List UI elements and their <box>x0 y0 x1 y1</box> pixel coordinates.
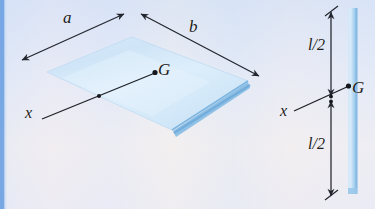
label-centroid-left: G <box>158 61 170 78</box>
page-edge-stripe <box>0 0 5 209</box>
edge-view-bar-highlight <box>348 8 351 194</box>
plate-edge-view <box>348 8 358 194</box>
x-axis-right <box>294 83 351 111</box>
label-x-axis-left: x <box>25 105 32 121</box>
centroid-dot-left <box>152 70 157 75</box>
x-axis-right-tick-upper <box>329 95 333 99</box>
label-l-over-2-bottom: l/2 <box>308 136 325 152</box>
edge-view-bar-shadow <box>355 8 357 194</box>
plate-isometric <box>47 37 250 137</box>
centroid-dot-right <box>346 83 351 88</box>
label-x-axis-right: x <box>280 103 287 119</box>
page-edge-stripe-soft <box>5 0 7 209</box>
x-axis-left-tick-dot <box>97 94 101 98</box>
x-axis-right-line <box>294 86 349 111</box>
figure-canvas: a b G x l/2 l/2 G x <box>0 0 375 209</box>
label-a: a <box>63 9 72 26</box>
figure-svg <box>0 0 375 209</box>
dimension-l-over-2-top <box>325 6 338 96</box>
label-centroid-right: G <box>352 79 364 96</box>
dimension-l-over-2-bottom <box>325 101 338 200</box>
label-b: b <box>189 18 198 35</box>
label-l-over-2-top: l/2 <box>308 37 325 53</box>
x-axis-right-tick-lower <box>329 100 333 104</box>
edge-view-bar-foot <box>348 188 357 194</box>
